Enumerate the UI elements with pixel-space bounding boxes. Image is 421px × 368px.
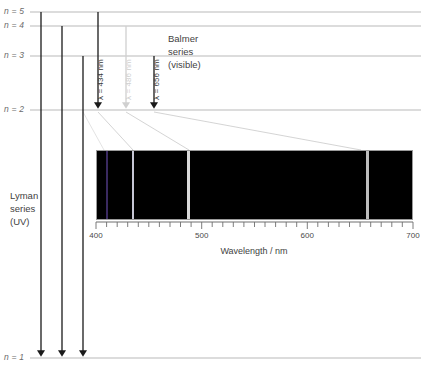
axis-tick-label-700: 700 bbox=[406, 231, 419, 240]
figure-root: n = 5 n = 4 n = 3 n = 2 n = 1 λ = 434 nm… bbox=[0, 0, 421, 368]
axis-minor-ticks bbox=[96, 222, 413, 229]
axis-title-wavelength: Wavelength / nm bbox=[220, 246, 287, 256]
wavelength-axis-layer bbox=[0, 0, 421, 368]
axis-tick-label-600: 600 bbox=[301, 231, 314, 240]
axis-tick-label-500: 500 bbox=[195, 231, 208, 240]
axis-tick-label-400: 400 bbox=[89, 231, 102, 240]
